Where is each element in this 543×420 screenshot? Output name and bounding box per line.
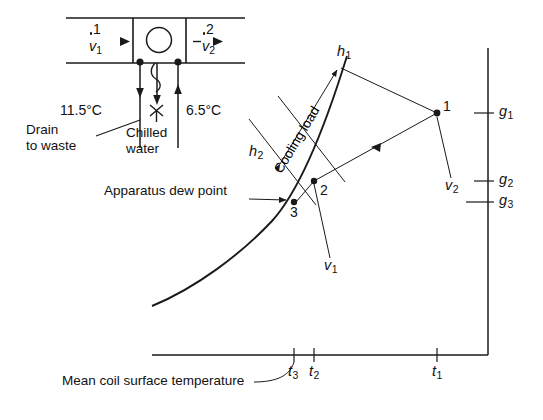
state-point-1-label: 1 [443, 99, 451, 114]
figure-linework [0, 0, 543, 420]
mean-coil-surface-temperature-label: Mean coil surface temperature [62, 374, 244, 388]
arrow-return-up [174, 84, 182, 94]
y-tick-label-g2: g2 [499, 172, 513, 189]
specific-volume-1-label: v1 [324, 258, 337, 275]
chart-axes [152, 48, 494, 362]
arrow-drain-down [153, 95, 161, 105]
state-point-3-label: 3 [290, 205, 298, 220]
y-tick-label-g1: g1 [499, 104, 513, 121]
x-tick-label-t2: t2 [309, 364, 319, 381]
pipe-junction-dot-right [175, 59, 181, 65]
state-point-2-dot [311, 178, 317, 184]
x-tick-label-t3: t3 [288, 364, 298, 381]
arrow-supply-down [136, 88, 144, 98]
chilled-water-inlet-temperature: 11.5°C [60, 103, 102, 118]
chilled-water-outlet-temperature: 6.5°C [186, 103, 221, 118]
process-lines [296, 68, 437, 202]
piping-direction-arrows [136, 84, 182, 105]
station-2-flow-symbol: v2 [202, 39, 215, 56]
drain-to-waste-label: Drain to waste [26, 122, 76, 154]
flow-arrow-1 [120, 37, 130, 46]
psychrometric-figure: 1 v1 2 v2 11.5°C 6.5°C Drain to waste Ch… [0, 0, 543, 420]
chilled-water-label: Chilled water [126, 125, 167, 157]
enthalpy-ray-1-to-h1 [341, 68, 437, 113]
drain-valve-symbol [150, 105, 163, 122]
cooling-coil-symbol [147, 28, 172, 53]
pipe-junction-dot-left [137, 59, 143, 65]
drain-trap-squiggle [151, 63, 160, 92]
specific-volume-2-label: v2 [445, 178, 458, 195]
process-line-1-to-2-arrowhead [371, 143, 381, 152]
state-point-2-label: 2 [320, 183, 328, 198]
enthalpy-label-h2: h2 [249, 144, 263, 161]
specific-volume-2-leader [437, 117, 451, 178]
apparatus-dew-point-label: Apparatus dew point [104, 184, 227, 198]
apparatus-dew-point-arrow [249, 199, 286, 200]
y-tick-label-g3: g3 [499, 193, 513, 210]
x-tick-label-t1: t1 [432, 364, 442, 381]
station-1-number: 1 [93, 22, 101, 37]
state-point-1-dot [434, 110, 441, 117]
station-2-number: 2 [206, 22, 214, 37]
station-1-flow-symbol: v1 [89, 39, 102, 56]
enthalpy-label-h1: h1 [337, 44, 351, 61]
